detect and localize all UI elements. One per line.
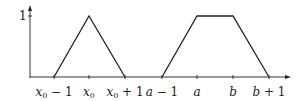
label-x0-plus-1: x0 + 1: [106, 85, 143, 100]
label-b: b: [229, 85, 237, 99]
label-a: a: [193, 85, 200, 99]
y-axis-arrow-icon: [28, 5, 32, 11]
label-x0-minus-1: x0 − 1: [35, 85, 72, 100]
label-x0: x0: [83, 85, 95, 100]
trapezoid-function: [162, 16, 269, 77]
label-b-plus-1: b + 1: [252, 85, 285, 99]
triangle-function: [54, 16, 125, 77]
x-labels: x0 − 1 x0 x0 + 1 a − 1 a b b + 1: [35, 85, 285, 100]
label-a-minus-1: a − 1: [146, 85, 178, 99]
x-axis-arrow-icon: [285, 75, 291, 79]
membership-diagram: 1 x0 − 1 x0 x0 + 1 a − 1 a b b + 1: [0, 0, 303, 101]
y-tick-label: 1: [19, 9, 27, 23]
